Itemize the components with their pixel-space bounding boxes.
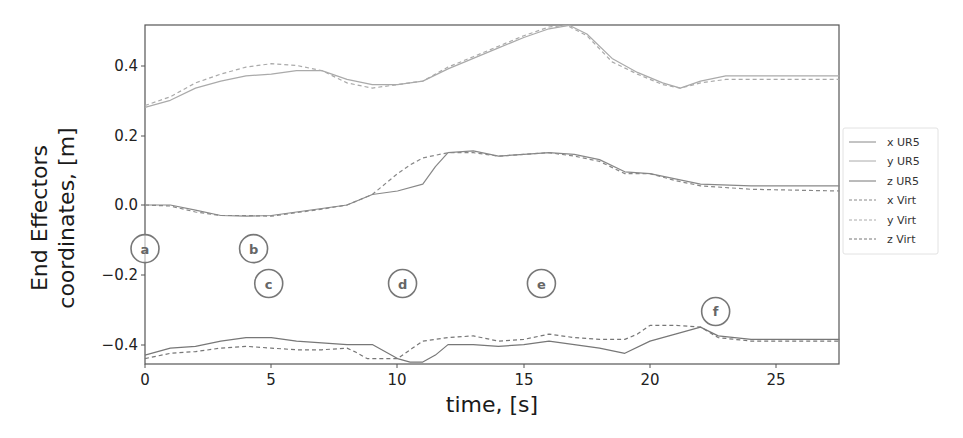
legend-label: x UR5 (887, 136, 920, 149)
annotation-e: e (527, 270, 555, 298)
legend-label: y UR5 (887, 155, 920, 168)
x-axis-title: time, [s] (446, 392, 538, 417)
y-tick-label: 0.2 (114, 127, 138, 145)
y-axis-title: End Effectors coordinates, [m] (27, 127, 79, 308)
y-tick-label: −0.4 (102, 336, 138, 354)
annotation-label: b (249, 242, 258, 257)
x-axis: 0 5 10 15 20 25 (140, 364, 785, 389)
annotation-b: b (240, 235, 268, 263)
y-tick-label: 0.4 (114, 57, 138, 75)
annotation-f: f (702, 297, 730, 325)
y-axis-title-line1: End Effectors (27, 145, 52, 291)
x-tick-label: 25 (766, 371, 785, 389)
x-tick-label: 20 (640, 371, 659, 389)
annotation-label: c (265, 277, 273, 292)
x-tick-label: 10 (387, 371, 406, 389)
annotation-label: a (141, 242, 150, 257)
annotation-a: a (131, 235, 159, 263)
y-tick-label: −0.2 (102, 266, 138, 284)
x-tick-label: 5 (266, 371, 276, 389)
annotation-label: e (537, 277, 546, 292)
y-axis: 0.4 0.2 0.0 −0.2 −0.4 (102, 57, 145, 354)
x-tick-label: 15 (514, 371, 533, 389)
legend-label: z Virt (887, 233, 916, 246)
annotation-label: d (398, 277, 407, 292)
legend-label: y Virt (887, 214, 917, 227)
x-tick-label: 0 (140, 371, 150, 389)
annotation-label: f (713, 304, 719, 319)
legend-label: x Virt (887, 194, 917, 207)
y-axis-title-line2: coordinates, [m] (54, 127, 79, 308)
line-chart: abcdef 0.4 0.2 0.0 −0.2 −0.4 0 5 10 15 2… (0, 0, 963, 438)
legend-label: z UR5 (887, 175, 919, 188)
annotation-c: c (255, 270, 283, 298)
y-tick-label: 0.0 (114, 196, 138, 214)
legend: x UR5 y UR5 z UR5 x Virt y Virt z Virt (843, 128, 938, 254)
annotation-d: d (389, 270, 417, 298)
